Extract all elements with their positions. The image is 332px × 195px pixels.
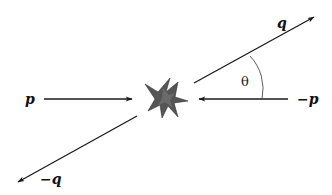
collision-burst-icon	[145, 78, 188, 118]
scattering-diagram: p −p q −q θ	[0, 0, 332, 195]
vector-q: q	[194, 15, 314, 83]
vector-neg-q: −q	[18, 116, 137, 187]
angle-theta: θ	[241, 56, 263, 99]
label-q: q	[277, 15, 287, 31]
label-neg-q: −q	[40, 171, 62, 187]
label-theta: θ	[241, 74, 249, 89]
label-neg-p: −p	[297, 91, 319, 107]
label-p: p	[25, 91, 35, 107]
angle-arc	[250, 56, 263, 99]
vector-p: p	[25, 91, 132, 107]
vector-neg-p: −p	[199, 91, 319, 107]
arrow-q-shaft	[194, 17, 314, 83]
arrow-neg-q-shaft	[18, 116, 137, 182]
